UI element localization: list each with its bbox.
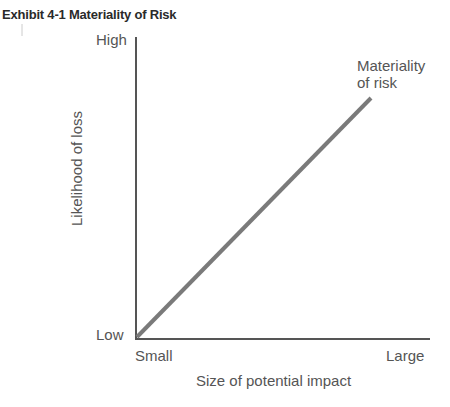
x-tick-large: Large — [386, 347, 424, 364]
y-axis-label: Likelihood of loss — [68, 89, 85, 249]
annotation-line1: Materiality — [357, 57, 425, 74]
materiality-line — [137, 98, 371, 337]
y-tick-low: Low — [96, 326, 124, 343]
annotation-line2: of risk — [357, 74, 425, 91]
line-annotation: Materiality of risk — [357, 57, 425, 91]
x-tick-small: Small — [135, 347, 173, 364]
x-axis-label: Size of potential impact — [196, 372, 351, 389]
y-tick-high: High — [96, 31, 127, 48]
